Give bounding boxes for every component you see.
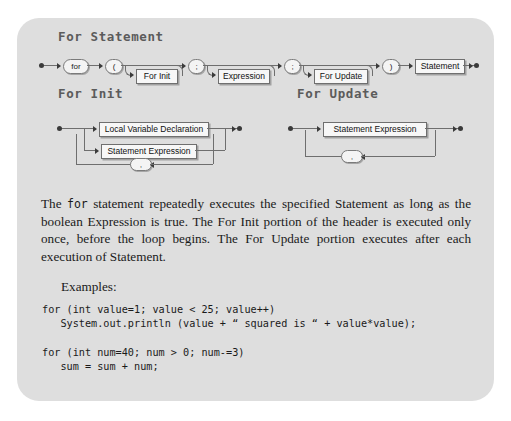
- track-segment: [293, 128, 319, 129]
- node-nonterminal-for-init: For Init: [136, 69, 178, 84]
- arrow-icon: [93, 126, 97, 132]
- node-terminal-comma-separator: ,: [341, 150, 363, 163]
- heading-for-init: For Init: [58, 86, 123, 101]
- node-nonterminal-statement: Statement: [415, 59, 465, 74]
- arrow-icon: [57, 63, 61, 69]
- arrow-icon: [182, 63, 186, 69]
- examples-label: Examples:: [61, 279, 117, 295]
- track-segment: [207, 128, 225, 129]
- arrow-icon: [99, 63, 103, 69]
- track-segment: [361, 156, 435, 157]
- end-terminator-dot: [458, 126, 463, 131]
- track-segment: [435, 130, 436, 156]
- arrow-icon: [308, 72, 312, 78]
- track-segment: [150, 164, 213, 165]
- arrow-icon: [130, 72, 134, 78]
- node-terminal-close-paren: ): [382, 59, 400, 74]
- track-elbow: [268, 65, 275, 76]
- arrow-icon: [278, 63, 282, 69]
- railroad-for-init: Local Variable Declaration Statement Exp…: [17, 114, 257, 174]
- track-segment: [263, 65, 279, 66]
- arrow-icon: [212, 72, 216, 78]
- arrow-icon: [95, 148, 99, 154]
- track-segment: [225, 128, 226, 150]
- track-segment: [167, 65, 183, 66]
- arrow-icon: [469, 63, 473, 69]
- paragraph-inline-code: for: [67, 197, 88, 211]
- node-nonterminal-for-update: For Update: [314, 69, 368, 84]
- arrow-icon: [376, 63, 380, 69]
- node-nonterminal-statement-expression: Statement Expression: [101, 144, 197, 159]
- node-terminal-comma-separator: ,: [130, 158, 152, 171]
- heading-for-update: For Update: [297, 86, 378, 101]
- track-segment: [76, 134, 77, 164]
- node-nonterminal-expression: Expression: [218, 69, 270, 84]
- arrow-icon: [453, 126, 457, 132]
- track-segment: [305, 156, 345, 157]
- node-nonterminal-local-variable-declaration: Local Variable Declaration: [99, 122, 209, 137]
- arrow-icon: [317, 126, 321, 132]
- track-segment: [84, 128, 85, 150]
- node-nonterminal-statement-expression: Statement Expression: [323, 122, 427, 137]
- track-segment: [195, 150, 225, 151]
- node-terminal-semicolon-1: ;: [188, 59, 205, 74]
- track-segment: [44, 65, 58, 66]
- track-elbow: [366, 65, 373, 76]
- paragraph-rest: statement repeatedly executes the specif…: [41, 196, 471, 264]
- railroad-for-update: Statement Expression ,: [279, 114, 494, 174]
- code-example-2: for (int num=40; num > 0; num-=3) sum = …: [42, 346, 244, 373]
- arrow-icon: [409, 63, 413, 69]
- node-terminal-semicolon-2: ;: [284, 59, 301, 74]
- content-panel: For Statement for ( For Init ;: [17, 18, 494, 401]
- heading-for-statement: For Statement: [58, 29, 164, 44]
- track-segment: [76, 164, 136, 165]
- end-terminator-dot: [474, 63, 479, 68]
- node-terminal-open-paren: (: [105, 59, 123, 74]
- track-segment: [213, 134, 214, 164]
- paragraph-lead: The: [41, 196, 67, 211]
- code-example-1: for (int value=1; value < 25; value++) S…: [42, 303, 416, 330]
- track-segment: [305, 130, 306, 156]
- page-root: For Statement for ( For Init ;: [0, 0, 511, 421]
- body-paragraph: The for statement repeatedly executes th…: [41, 195, 471, 265]
- arrow-icon: [232, 126, 236, 132]
- node-terminal-for: for: [63, 59, 89, 74]
- end-terminator-dot: [237, 126, 242, 131]
- track-segment: [361, 65, 377, 66]
- railroad-for-statement: for ( For Init ; Expression ;: [17, 48, 494, 90]
